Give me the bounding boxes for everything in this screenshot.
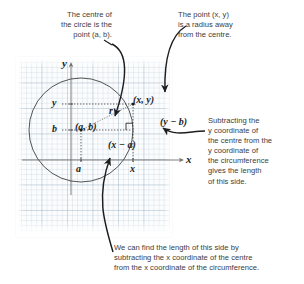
x-axis-label: x [186, 153, 192, 165]
axis-ticks [69, 104, 133, 162]
leader-centre-note [104, 40, 112, 45]
figure-root: y x y b a x (a, b) (x, y) r (x − a) (y −… [0, 0, 304, 284]
construction-lines [62, 104, 133, 162]
axis-lines [22, 64, 182, 195]
tick-label-b: b [52, 123, 57, 134]
tick-label-a: a [76, 163, 81, 174]
note-point-is-radius-away: The point (x, y) is a radius away from t… [178, 10, 296, 40]
note-subtract-y-coordinate: Subtracting the y coordinate of the cent… [208, 116, 300, 187]
arrow-centre-note [112, 44, 124, 116]
radius-label: r [109, 105, 113, 116]
arrow-ysubtract-note [163, 128, 205, 133]
right-angle-marker [126, 123, 133, 130]
tick-label-y: y [52, 97, 56, 108]
tick-label-x: x [130, 163, 135, 174]
y-minus-b-label: (y − b) [160, 116, 187, 127]
circumference-point-label: (x, y) [133, 94, 154, 105]
x-minus-a-label: (x − a) [108, 139, 136, 150]
note-subtract-x-coordinate: We can find the length of this side by s… [114, 243, 302, 273]
centre-point-label: (a, b) [75, 121, 97, 132]
note-centre-of-circle: The centre of the circle is the point (a… [6, 10, 112, 40]
y-axis-label: y [62, 57, 67, 69]
